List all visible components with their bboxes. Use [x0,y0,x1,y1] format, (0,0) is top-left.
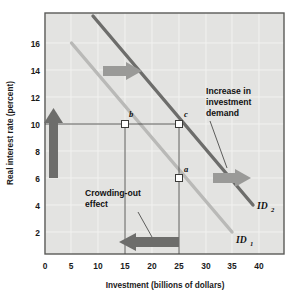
x-axis-title: Investment (billions of dollars) [106,281,225,290]
data-point-c[interactable] [176,121,183,128]
svg-text:4: 4 [35,201,40,211]
data-point-label-a: a [184,164,189,174]
svg-text:14: 14 [31,66,41,76]
svg-text:ID: ID [235,234,247,245]
svg-text:10: 10 [93,261,103,271]
svg-text:5: 5 [69,261,74,271]
svg-text:40: 40 [254,261,264,271]
svg-text:8: 8 [35,147,40,157]
svg-text:6: 6 [35,174,40,184]
chart-canvas: b c a ID 2 ID 1 Increase in investment d… [0,0,304,306]
svg-text:investment: investment [206,97,252,107]
svg-text:25: 25 [174,261,184,271]
data-point-b[interactable] [122,121,129,128]
svg-text:effect: effect [85,199,108,209]
data-point-label-b: b [129,109,134,119]
svg-text:1: 1 [250,240,253,247]
svg-text:Crowding-out: Crowding-out [85,188,141,198]
svg-text:30: 30 [201,261,211,271]
svg-text:15: 15 [120,261,130,271]
data-point-a[interactable] [176,175,183,182]
plot-area-background [45,13,284,254]
svg-text:demand: demand [206,108,239,118]
svg-text:35: 35 [227,261,237,271]
data-point-label-c: c [184,109,188,119]
y-axis-title: Real interest rate (percent) [6,81,15,185]
svg-text:0: 0 [43,261,48,271]
svg-text:2: 2 [35,228,40,238]
svg-text:Increase in: Increase in [206,86,251,96]
svg-text:10: 10 [31,120,41,130]
investment-demand-chart: b c a ID 2 ID 1 Increase in investment d… [0,0,304,306]
svg-text:16: 16 [31,39,41,49]
svg-text:2: 2 [270,206,275,213]
svg-text:ID: ID [256,200,268,211]
svg-text:12: 12 [31,93,41,103]
svg-text:20: 20 [147,261,157,271]
